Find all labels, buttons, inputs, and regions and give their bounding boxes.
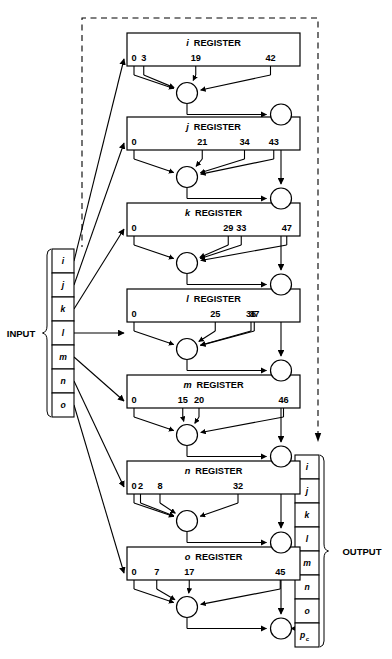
register-tap-value: 0 xyxy=(131,481,136,491)
diagram-svg: ijklmnoINPUTijklmnopcOUTPUTiREGISTER0319… xyxy=(0,0,392,659)
register-tap-value: 34 xyxy=(239,137,250,147)
tap-wire xyxy=(201,408,284,432)
adder-circle xyxy=(271,618,292,639)
input-fanout-wire xyxy=(74,357,124,401)
register-adder xyxy=(177,511,198,532)
register-tap-value: 46 xyxy=(278,395,288,405)
tap-wire xyxy=(144,66,174,88)
register-adder xyxy=(177,339,198,360)
register-tap-value: 0 xyxy=(131,309,136,319)
register-adder xyxy=(177,597,198,618)
register-tap-value: 32 xyxy=(233,481,243,491)
tap-wire xyxy=(141,494,174,516)
output-cell-label: n xyxy=(304,582,309,592)
tap-wire xyxy=(134,322,174,344)
tap-wire xyxy=(201,66,271,90)
adder-circle xyxy=(177,83,198,104)
adder-circle xyxy=(271,446,292,467)
adder-circle xyxy=(271,360,292,381)
adder-circle xyxy=(177,253,198,274)
adder-circle xyxy=(177,511,198,532)
register-tap-value: 20 xyxy=(194,395,204,405)
tap-wire xyxy=(201,236,287,261)
adder-circle xyxy=(271,104,292,125)
register-tap-value: 45 xyxy=(275,567,285,577)
input-cell-label: o xyxy=(60,400,65,410)
tap-wire xyxy=(157,580,175,600)
diagram-canvas: ijklmnoINPUTijklmnopcOUTPUTiREGISTER0319… xyxy=(0,0,392,659)
tap-wire xyxy=(134,150,174,172)
register-tap-value: 42 xyxy=(265,53,275,63)
register-tap-value: 0 xyxy=(131,137,136,147)
input-cell-label: n xyxy=(60,376,65,386)
adder-circle xyxy=(271,532,292,553)
tap-wire xyxy=(189,580,190,593)
tap-wire xyxy=(195,408,199,423)
register-tap-value: 37 xyxy=(249,309,259,319)
register-tap-value: 21 xyxy=(197,137,207,147)
tap-wire xyxy=(134,408,174,430)
register-tap-value: 15 xyxy=(178,395,188,405)
chain-adder xyxy=(271,360,292,381)
chain-adder xyxy=(271,618,292,639)
register-tap-value: 7 xyxy=(154,567,159,577)
register-title: lREGISTER xyxy=(186,294,241,304)
tap-wire xyxy=(201,322,255,345)
register-tap-value: 0 xyxy=(131,53,136,63)
register-tap-value: 29 xyxy=(223,223,233,233)
register-tap-value: 0 xyxy=(131,567,136,577)
input-label: INPUT xyxy=(7,328,36,339)
register-tap-value: 25 xyxy=(210,309,220,319)
input-cell-label: m xyxy=(59,352,67,362)
output-cell-label: m xyxy=(303,558,311,568)
register-tap-value: 43 xyxy=(269,137,279,147)
register-tap-value: 3 xyxy=(141,53,146,63)
register-tap-value: 0 xyxy=(131,395,136,405)
register-adder xyxy=(177,83,198,104)
chain-adder xyxy=(271,104,292,125)
tap-wire xyxy=(196,150,202,166)
input-fanout-wire xyxy=(74,229,124,309)
input-fanout-wire xyxy=(74,381,124,487)
tap-wire xyxy=(193,66,196,80)
tap-wire xyxy=(200,494,238,516)
register-tap-value: 19 xyxy=(191,53,201,63)
adder-circle xyxy=(271,274,292,295)
adder-circle xyxy=(177,425,198,446)
register-adder xyxy=(177,253,198,274)
register-adder xyxy=(177,167,198,188)
register-tap-value: 33 xyxy=(236,223,246,233)
tap-wire xyxy=(160,494,175,513)
register-tap-value: 47 xyxy=(282,223,292,233)
register-title: jREGISTER xyxy=(185,122,241,132)
chain-adder xyxy=(271,532,292,553)
adder-circle xyxy=(177,167,198,188)
adder-circle xyxy=(271,188,292,209)
input-fanout-wire xyxy=(74,405,124,573)
chain-adder xyxy=(271,274,292,295)
register-title: iREGISTER xyxy=(186,38,241,48)
register-tap-value: 8 xyxy=(157,481,162,491)
adder-circle xyxy=(177,339,198,360)
input-brace xyxy=(43,249,52,417)
register-tap-value: 2 xyxy=(138,481,143,491)
output-label: OUTPUT xyxy=(342,546,381,557)
register-tap-value: 0 xyxy=(131,223,136,233)
tap-wire xyxy=(201,580,281,604)
tap-wire xyxy=(201,150,274,174)
tap-wire xyxy=(199,322,215,341)
register-tap-value: 17 xyxy=(184,567,194,577)
output-cell-label: o xyxy=(304,606,309,616)
adder-circle xyxy=(177,597,198,618)
chain-adder xyxy=(271,446,292,467)
tap-wire xyxy=(134,580,174,602)
tap-wire xyxy=(183,408,184,421)
register-adder xyxy=(177,425,198,446)
output-brace xyxy=(320,455,329,647)
tap-wire xyxy=(134,236,174,258)
tap-wire xyxy=(200,236,241,259)
chain-adder xyxy=(271,188,292,209)
